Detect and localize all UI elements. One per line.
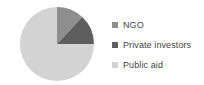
legend-item-private-investors[interactable]: Private investors <box>112 35 204 55</box>
legend-swatch-icon-ngo <box>112 22 118 28</box>
pie-chart-graphic <box>20 7 94 81</box>
pie-svg <box>20 7 94 81</box>
legend-label-private-investors: Private investors <box>123 40 191 50</box>
legend-label-ngo: NGO <box>123 20 144 30</box>
pie-chart-figure: NGO Private investors Public aid <box>0 0 204 85</box>
chart-legend: NGO Private investors Public aid <box>112 15 204 75</box>
legend-item-ngo[interactable]: NGO <box>112 15 204 35</box>
legend-item-public-aid[interactable]: Public aid <box>112 55 204 75</box>
legend-swatch-icon-private-investors <box>112 42 118 48</box>
legend-label-public-aid: Public aid <box>123 60 163 70</box>
legend-swatch-icon-public-aid <box>112 62 118 68</box>
pie-slices <box>20 7 94 81</box>
